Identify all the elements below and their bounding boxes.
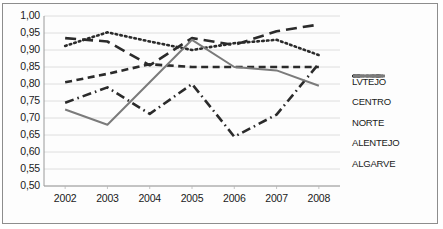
x-axis-tick-label: 2006	[211, 192, 257, 204]
line-chart: 0,500,550,600,650,700,750,800,850,900,95…	[0, 0, 443, 229]
legend-item-norte[interactable]: NORTE	[352, 112, 440, 133]
y-axis-tick-label: 0,60	[0, 145, 40, 157]
y-axis-tick-label: 0,65	[0, 128, 40, 140]
x-axis-tick-label: 2003	[84, 192, 130, 204]
series-line-algarve	[65, 40, 319, 125]
chart-legend: LVTEJOCENTRONORTEALENTEJOALGARVE	[352, 71, 440, 174]
y-axis-tick-label: 0,80	[0, 77, 40, 89]
legend-key-algarve	[352, 71, 386, 81]
x-axis-tick-label: 2008	[296, 192, 342, 204]
y-axis-tick-label: 0,75	[0, 94, 40, 106]
legend-label: CENTRO	[352, 96, 391, 107]
y-axis-tick-label: 0,50	[0, 179, 40, 191]
x-axis-tick-label: 2004	[127, 192, 173, 204]
y-axis-tick-label: 1,00	[0, 9, 40, 21]
series-line-centro	[65, 32, 319, 55]
x-axis-tick-label: 2007	[254, 192, 300, 204]
legend-item-centro[interactable]: CENTRO	[352, 92, 440, 113]
x-axis-tick-label: 2005	[169, 192, 215, 204]
y-axis-tick-label: 0,90	[0, 43, 40, 55]
y-axis-tick-label: 0,70	[0, 111, 40, 123]
series-line-lvtejo	[65, 25, 319, 66]
legend-item-algarve[interactable]: ALGARVE	[352, 153, 440, 174]
y-axis-tick-label: 0,85	[0, 60, 40, 72]
legend-label: ALENTEJO	[352, 137, 400, 148]
y-axis-tick-label: 0,55	[0, 162, 40, 174]
x-axis-tick-label: 2002	[42, 192, 88, 204]
y-axis-tick-label: 0,95	[0, 26, 40, 38]
legend-label: NORTE	[352, 117, 384, 128]
legend-label: ALGARVE	[352, 158, 395, 169]
legend-item-alentejo[interactable]: ALENTEJO	[352, 133, 440, 154]
